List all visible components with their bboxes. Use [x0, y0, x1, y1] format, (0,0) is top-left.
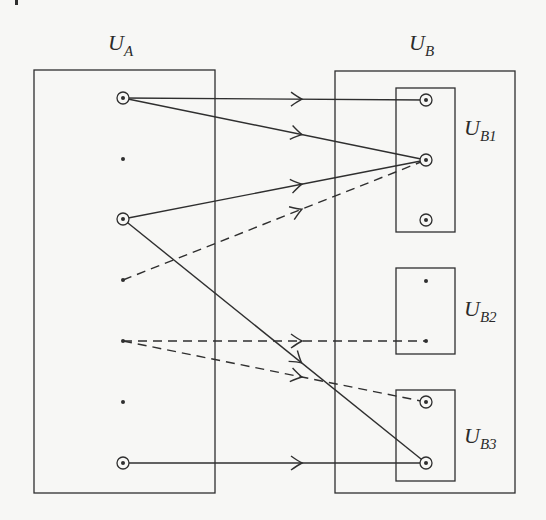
- node-a5: [121, 339, 125, 343]
- edge-a3-b2: [123, 160, 426, 219]
- edge-a4-b2: [123, 160, 426, 280]
- node-a4: [121, 278, 125, 282]
- arrowhead-icon: [290, 368, 304, 384]
- label-UB3: UB3: [464, 423, 497, 452]
- node-a3: [121, 217, 125, 221]
- label-UA: UA: [108, 30, 134, 59]
- corner-mark: [15, 0, 18, 5]
- node-b2: [424, 158, 428, 162]
- edge-a1-b1: [123, 98, 426, 100]
- label-UB: UB: [409, 30, 434, 59]
- node-a1: [121, 96, 125, 100]
- node-b1: [424, 98, 428, 102]
- set-box-UA: [34, 70, 215, 493]
- node-b6: [424, 400, 428, 404]
- node-a7: [121, 461, 125, 465]
- node-a6: [121, 400, 125, 404]
- sets-layer: [34, 70, 515, 493]
- label-UB1: UB1: [464, 115, 497, 144]
- edge-a1-b2: [123, 98, 426, 160]
- set-mapping-diagram: UA UB UB1 UB2 UB3: [0, 0, 546, 520]
- node-b7: [424, 461, 428, 465]
- nodes-layer: [117, 92, 432, 469]
- edge-a5-b6: [123, 341, 426, 402]
- edges-layer: [123, 92, 426, 470]
- node-b4: [424, 279, 428, 283]
- node-b3: [424, 218, 428, 222]
- label-UB2: UB2: [464, 296, 497, 325]
- node-b5: [424, 339, 428, 343]
- node-a2: [121, 157, 125, 161]
